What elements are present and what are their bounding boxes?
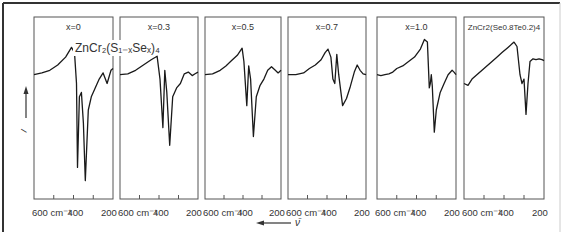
- tick-label-200: 200: [269, 207, 285, 218]
- spectrum-panel: x=0.5600 cm⁻¹400200: [203, 17, 285, 218]
- panel-title: x=1.0: [405, 22, 427, 32]
- series-annotation: ZnCr₂(S₁₋ₓSeₓ)₄: [75, 41, 160, 55]
- tick-label-400: 400: [153, 207, 169, 218]
- tick-label-200: 200: [444, 207, 460, 218]
- panel-border: [377, 17, 456, 199]
- spectrum-curve: [34, 47, 113, 180]
- x-axis-label: ν̄: [295, 217, 302, 228]
- tick-label-600: 600 cm⁻¹: [32, 207, 71, 218]
- tick-label-600: 600 cm⁻¹: [462, 207, 501, 218]
- spectrum-panel: x=0.7600 cm⁻¹400200: [286, 17, 370, 218]
- tick-label-600: 600 cm⁻¹: [118, 207, 157, 218]
- tick-label-200: 200: [101, 207, 117, 218]
- y-axis-arrow-icon: [24, 86, 29, 118]
- tick-label-200: 200: [186, 207, 202, 218]
- spectrum-panel: x=1.0600 cm⁻¹400200: [375, 17, 460, 218]
- spectrum-curve: [205, 48, 281, 136]
- tick-label-400: 400: [237, 207, 253, 218]
- tick-label-400: 400: [498, 207, 514, 218]
- tick-label-200: 200: [354, 207, 370, 218]
- ir-spectra-figure: I ν̄ x=0600 cm⁻¹400200x=0.3600 cm⁻¹40020…: [0, 0, 564, 233]
- panel-title: ZnCr2(Se0.8Te0.2)4: [468, 23, 541, 32]
- panel-title: x=0: [66, 22, 81, 32]
- y-axis-label: I: [19, 127, 29, 133]
- spectrum-curve: [377, 39, 456, 132]
- tick-label-600: 600 cm⁻¹: [375, 207, 414, 218]
- spectrum-curve: [288, 49, 366, 106]
- spectrum-curve: [120, 56, 198, 145]
- panel-title: x=0.3: [148, 22, 170, 32]
- x-axis-arrow-icon: [256, 221, 291, 226]
- tick-label-600: 600 cm⁻¹: [286, 207, 325, 218]
- tick-label-400: 400: [68, 207, 84, 218]
- panel-title: x=0.7: [316, 22, 338, 32]
- panel-border: [464, 17, 544, 199]
- tick-label-400: 400: [411, 207, 427, 218]
- spectrum-panel: ZnCr2(Se0.8Te0.2)4600 cm⁻¹400200: [462, 17, 548, 218]
- tick-label-400: 400: [321, 207, 337, 218]
- panel-border: [288, 17, 366, 199]
- panel-border: [205, 17, 281, 199]
- tick-label-200: 200: [532, 207, 548, 218]
- panel-title: x=0.5: [232, 22, 254, 32]
- spectrum-curve: [464, 42, 544, 114]
